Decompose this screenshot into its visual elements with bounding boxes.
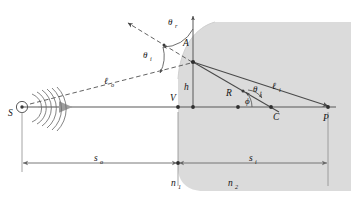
svg-text:V: V xyxy=(170,93,177,103)
reflected-ray-node xyxy=(163,44,166,47)
spherical-wavefronts xyxy=(32,87,66,131)
theta-t-vertex-node xyxy=(242,90,245,93)
dimension-shared-node xyxy=(176,161,180,165)
optics-diagram-figure: S A V C P θ r θ i θ t xyxy=(0,0,351,209)
svg-text:h: h xyxy=(184,82,189,92)
svg-text:s: s xyxy=(249,153,253,163)
svg-text:i: i xyxy=(279,86,281,93)
vertex-point-V xyxy=(176,105,180,109)
svg-text:θ: θ xyxy=(168,17,173,27)
label-radius-R: R xyxy=(225,88,232,98)
svg-text:o: o xyxy=(100,158,103,165)
svg-text:s: s xyxy=(94,153,98,163)
angle-arc-theta-i xyxy=(160,47,164,73)
label-angle-theta-r: θ r xyxy=(168,17,178,29)
svg-text:ϕ: ϕ xyxy=(245,96,250,106)
svg-text:S: S xyxy=(8,108,13,118)
label-image-P: P xyxy=(322,113,329,123)
center-point-C xyxy=(269,105,273,109)
svg-text:C: C xyxy=(273,112,280,122)
label-source-S: S xyxy=(8,108,13,118)
svg-text:2: 2 xyxy=(235,183,238,190)
svg-text:n: n xyxy=(171,178,176,188)
svg-text:1: 1 xyxy=(178,183,181,190)
image-point-P xyxy=(326,105,330,109)
svg-text:θ: θ xyxy=(143,50,148,60)
svg-text:R: R xyxy=(225,88,232,98)
incidence-point-A xyxy=(191,60,195,64)
svg-text:r: r xyxy=(175,22,178,29)
svg-text:ℓ: ℓ xyxy=(104,76,108,86)
svg-text:ℓ: ℓ xyxy=(272,81,276,91)
svg-text:θ: θ xyxy=(253,84,258,94)
svg-text:t: t xyxy=(260,89,262,96)
label-height-h: h xyxy=(184,82,189,92)
label-length-lo: ℓ o xyxy=(104,76,114,88)
label-point-A: A xyxy=(182,38,189,48)
svg-text:P: P xyxy=(322,113,329,123)
foot-of-h-point xyxy=(191,105,195,109)
svg-text:n: n xyxy=(228,178,233,188)
svg-text:i: i xyxy=(255,158,257,165)
svg-text:A: A xyxy=(182,38,189,48)
svg-text:i: i xyxy=(150,55,152,62)
label-center-C: C xyxy=(273,112,280,122)
label-vertex-V: V xyxy=(170,93,177,103)
svg-text:o: o xyxy=(111,81,114,88)
radius-base-point xyxy=(236,105,240,109)
label-medium-n1: n 1 xyxy=(171,178,181,190)
label-angle-theta-i: θ i xyxy=(143,50,152,62)
label-angle-phi: ϕ xyxy=(245,96,250,106)
